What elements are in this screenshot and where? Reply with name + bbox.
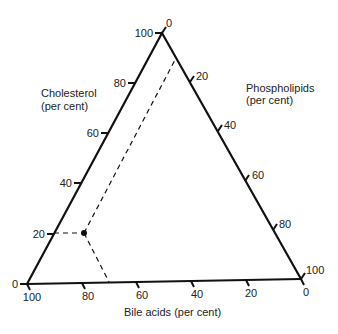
svg-text:40: 40 (191, 288, 203, 300)
bile-acids-tick-labels: 100 80 60 40 20 0 (23, 286, 309, 303)
svg-text:100: 100 (23, 291, 41, 303)
svg-text:80: 80 (114, 77, 126, 89)
svg-text:80: 80 (279, 218, 291, 230)
svg-text:0: 0 (12, 278, 18, 290)
svg-text:100: 100 (306, 264, 324, 276)
svg-text:40: 40 (224, 119, 236, 131)
phospholipids-axis-unit: (per cent) (246, 94, 293, 106)
bile-acids-axis-title: Bile acids (per cent) (124, 306, 221, 318)
phospholipids-tick-labels: 0 20 40 60 80 100 (166, 17, 324, 276)
triangle-frame (27, 33, 301, 284)
cholesterol-axis-unit: (per cent) (41, 100, 88, 112)
phospholipids-guide (84, 58, 176, 233)
svg-text:60: 60 (252, 169, 264, 181)
svg-text:40: 40 (60, 177, 72, 189)
phospholipids-axis-title: Phospholipids (246, 82, 315, 94)
svg-text:100: 100 (135, 27, 153, 39)
ternary-diagram: 0 20 40 60 80 100 0 20 40 60 80 100 100 … (0, 0, 338, 334)
svg-text:60: 60 (87, 127, 99, 139)
svg-text:60: 60 (136, 289, 148, 301)
cholesterol-tick-labels: 0 20 40 60 80 100 (12, 27, 153, 290)
data-point (81, 230, 87, 236)
svg-text:20: 20 (196, 70, 208, 82)
svg-text:80: 80 (82, 290, 94, 302)
svg-text:0: 0 (166, 17, 172, 29)
bile-acids-guide (84, 233, 109, 282)
phospholipids-ticks (162, 27, 305, 279)
cholesterol-axis-title: Cholesterol (41, 87, 97, 99)
svg-text:20: 20 (245, 287, 257, 299)
svg-text:0: 0 (303, 286, 309, 298)
svg-text:20: 20 (33, 228, 45, 240)
